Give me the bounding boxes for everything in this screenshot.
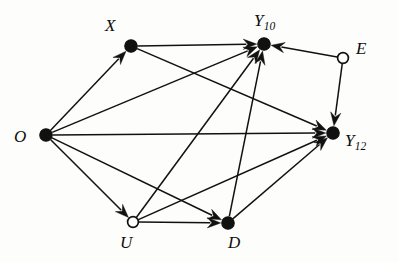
node-y10[interactable] <box>258 38 270 50</box>
edge-e-y10-line <box>281 47 337 57</box>
node-label-y12: Y12 <box>345 132 366 153</box>
node-label-subscript: 10 <box>264 20 276 32</box>
node-label-y10: Y10 <box>254 12 275 33</box>
node-x[interactable] <box>125 40 137 52</box>
edges-layer <box>51 39 343 228</box>
node-label-text: U <box>120 233 133 252</box>
node-e[interactable] <box>338 53 349 64</box>
node-label-o: O <box>14 128 27 145</box>
node-label-x: X <box>105 17 116 34</box>
node-o[interactable] <box>40 129 52 141</box>
node-label-u: U <box>120 234 133 251</box>
node-label-text: D <box>228 233 241 252</box>
diagram-canvas: OXY10EY12UD <box>0 0 398 262</box>
node-label-subscript: 12 <box>355 140 367 152</box>
edge-o-d-line <box>52 138 212 215</box>
node-label-d: D <box>228 234 241 251</box>
edge-o-y10-line <box>52 51 247 133</box>
node-label-text: Y <box>345 131 355 150</box>
edge-u-d-line <box>139 222 210 223</box>
edge-u-y12-line <box>138 140 316 219</box>
node-label-text: E <box>356 39 367 58</box>
node-label-text: Y <box>254 11 264 30</box>
node-y12[interactable] <box>327 127 339 139</box>
edge-u-y10-line <box>137 58 254 217</box>
edge-o-u-line <box>51 140 121 210</box>
edge-x-y10-line <box>138 44 247 46</box>
node-label-text: O <box>14 127 27 146</box>
edge-d-y12-line <box>233 145 319 219</box>
node-d[interactable] <box>222 217 234 229</box>
node-label-text: X <box>105 16 116 35</box>
node-label-e: E <box>356 40 367 57</box>
edge-o-y12-line <box>53 133 316 135</box>
graph-svg <box>0 0 398 262</box>
node-u[interactable] <box>128 217 139 228</box>
edge-e-y12-line <box>335 64 342 116</box>
